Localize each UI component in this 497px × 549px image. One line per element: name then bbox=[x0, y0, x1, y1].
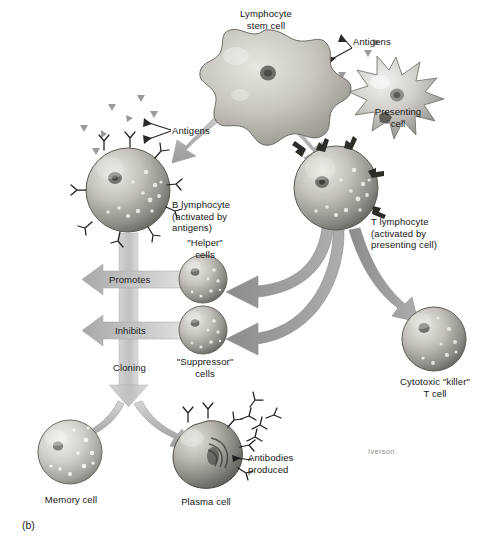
label-suppressor-cells: "Suppressor" cells bbox=[166, 356, 244, 379]
label-t-lymphocyte: T lymphocyte (activated by presenting ce… bbox=[371, 216, 485, 251]
label-cytotoxic-killer-t-cell: Cytotoxic "killer" T cell bbox=[386, 376, 484, 399]
label-lymphocyte-stem-cell: Lymphocyte stem cell bbox=[218, 8, 314, 31]
cell-lymphocyte-stem bbox=[200, 29, 351, 145]
figure-canvas: Lymphocyte stem cell Presenting cell B l… bbox=[0, 0, 497, 549]
label-promotes: Promotes bbox=[109, 274, 150, 285]
label-b-lymphocyte: B lymphocyte (activated by antigens) bbox=[172, 199, 276, 234]
panel-label: (b) bbox=[22, 519, 35, 531]
label-inhibits: Inhibits bbox=[115, 325, 146, 336]
released-antibodies bbox=[241, 392, 281, 441]
cell-cytotoxic-killer-t bbox=[402, 307, 466, 371]
label-antigens-left: Antigens bbox=[172, 125, 210, 137]
label-cloning: Cloning bbox=[113, 362, 146, 373]
cell-b-lymphocyte bbox=[71, 132, 182, 247]
label-memory-cell: Memory cell bbox=[28, 494, 114, 506]
cell-helper bbox=[179, 255, 227, 303]
label-antibodies-produced: Antibodies produced bbox=[248, 452, 318, 475]
label-antigens-right: Antigens bbox=[353, 36, 391, 48]
cell-suppressor bbox=[179, 306, 227, 354]
artist-credit: Iverson bbox=[368, 447, 395, 456]
cell-memory bbox=[38, 420, 102, 484]
label-plasma-cell: Plasma cell bbox=[166, 496, 246, 508]
arrow-cloning-vertical bbox=[109, 233, 148, 407]
label-helper-cells: "Helper" cells bbox=[176, 237, 234, 260]
antigen-leader-left bbox=[143, 118, 171, 144]
label-presenting-cell: Presenting cell bbox=[361, 106, 435, 129]
